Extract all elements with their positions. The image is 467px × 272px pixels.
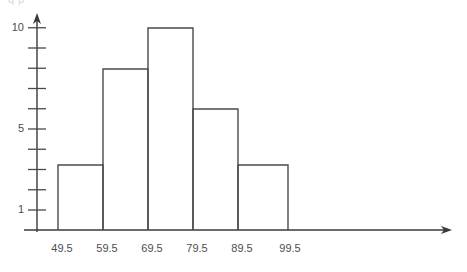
x-axis-label-3: 79.5 <box>186 242 207 254</box>
histogram-bars <box>58 28 288 230</box>
x-axis-label-5: 99.5 <box>279 242 300 254</box>
histogram-bar-4 <box>193 109 238 230</box>
histogram-screenshot: q p 1 5 10 <box>0 0 467 272</box>
histogram-bar-1 <box>58 165 103 230</box>
histogram-bar-5 <box>238 165 288 230</box>
y-axis-label-10: 10 <box>12 21 24 33</box>
y-axis-label-1: 1 <box>18 203 24 215</box>
y-axis-labels: 1 5 10 <box>12 21 24 215</box>
histogram-bar-2 <box>103 69 148 230</box>
x-axis-labels: 49.5 59.5 69.5 79.5 89.5 99.5 <box>51 242 300 254</box>
histogram-bar-3 <box>148 28 193 230</box>
x-axis-label-2: 69.5 <box>141 242 162 254</box>
x-axis-label-4: 89.5 <box>231 242 252 254</box>
x-axis-label-1: 59.5 <box>96 242 117 254</box>
x-axis-label-0: 49.5 <box>51 242 72 254</box>
histogram-chart: 1 5 10 49.5 59.5 69.5 79.5 89.5 99.5 <box>0 0 467 272</box>
y-axis-label-5: 5 <box>18 122 24 134</box>
